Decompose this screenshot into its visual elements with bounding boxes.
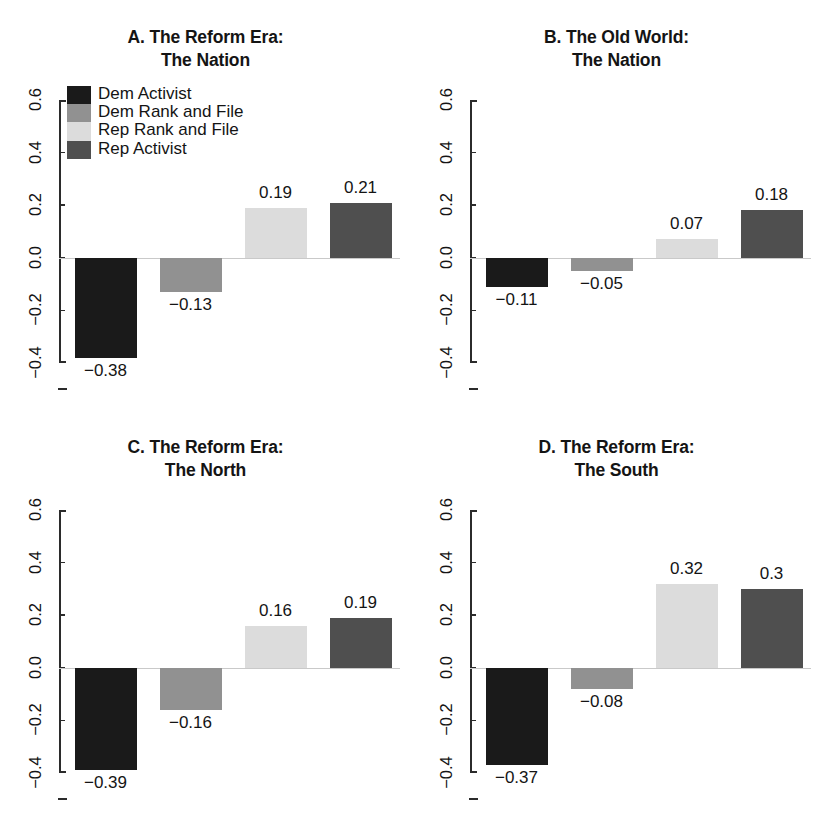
panel-b-plot-area: 0.60.40.20.0−0.2−0.4−0.11−0.050.070.18 [470, 100, 810, 363]
bar [75, 258, 137, 358]
y-axis-tick-label: −0.2 [26, 700, 45, 740]
y-axis-tick-label: −0.2 [26, 290, 45, 330]
bar-value-label: 0.16 [229, 601, 323, 621]
bar-value-label: 0.3 [725, 564, 819, 584]
panel-a: A. The Reform Era: The Nation 0.60.40.20… [0, 0, 411, 410]
y-axis-tick-label: 0.6 [437, 80, 456, 120]
bar-value-label: 0.21 [314, 178, 408, 198]
figure-panel-grid: A. The Reform Era: The Nation 0.60.40.20… [0, 0, 823, 821]
bar [486, 668, 548, 765]
y-axis-tick-label: −0.2 [437, 290, 456, 330]
bar [656, 239, 718, 257]
y-axis-tick-label: 0.0 [26, 647, 45, 687]
bar-value-label: −0.39 [59, 773, 153, 793]
y-axis-tick-label: 0.0 [437, 237, 456, 277]
y-axis-lower-dash [469, 388, 478, 390]
bar-value-label: 0.07 [640, 214, 734, 234]
bar [330, 203, 392, 258]
panel-d-title: D. The Reform Era: The South [411, 436, 822, 482]
bar [741, 589, 803, 668]
bar [571, 668, 633, 689]
y-axis-tick-label: 0.2 [437, 185, 456, 225]
panel-d: D. The Reform Era: The South 0.60.40.20.… [411, 410, 822, 820]
y-axis-lower-dash [469, 798, 478, 800]
bar-value-label: 0.32 [640, 559, 734, 579]
bar-group: −0.39−0.160.160.19 [59, 510, 399, 773]
bar [160, 258, 222, 292]
y-axis-tick-label: 0.0 [437, 647, 456, 687]
y-axis-tick-label: 0.4 [26, 542, 45, 582]
bar [245, 208, 307, 258]
y-axis-lower-dash [58, 388, 67, 390]
bar [330, 618, 392, 668]
bar-value-label: −0.08 [555, 692, 649, 712]
bar-value-label: −0.16 [144, 713, 238, 733]
bar-group: −0.37−0.080.320.3 [470, 510, 810, 773]
bar [160, 668, 222, 710]
bar-value-label: 0.18 [725, 185, 819, 205]
bar-value-label: −0.11 [470, 290, 564, 310]
legend-swatch-icon [67, 86, 91, 104]
legend-item: Rep Rank and File [67, 122, 307, 140]
y-axis-tick-label: 0.6 [26, 80, 45, 120]
bar [75, 668, 137, 771]
y-axis-tick-label: −0.4 [437, 753, 456, 793]
panel-c-plot-area: 0.60.40.20.0−0.2−0.4−0.39−0.160.160.19 [59, 510, 399, 773]
y-axis-tick-label: 0.4 [437, 542, 456, 582]
y-axis-tick-label: 0.2 [26, 185, 45, 225]
panel-a-title-line1: A. The Reform Era: [0, 26, 411, 49]
chart-legend: Dem ActivistDem Rank and FileRep Rank an… [67, 86, 307, 159]
panel-c-title-line1: C. The Reform Era: [0, 436, 411, 459]
y-axis-tick-label: −0.4 [437, 343, 456, 383]
y-axis-tick-label: 0.4 [26, 132, 45, 172]
y-axis-tick-label: 0.2 [26, 595, 45, 635]
panel-d-title-line1: D. The Reform Era: [411, 436, 822, 459]
panel-b: B. The Old World: The Nation 0.60.40.20.… [411, 0, 822, 410]
legend-swatch-icon [67, 104, 91, 122]
y-axis-tick-label: −0.4 [26, 343, 45, 383]
panel-c: C. The Reform Era: The North 0.60.40.20.… [0, 410, 411, 820]
bar [245, 626, 307, 668]
panel-b-title-line2: The Nation [411, 49, 822, 72]
panel-a-title-line2: The Nation [0, 49, 411, 72]
y-axis-tick-label: −0.4 [26, 753, 45, 793]
bar-value-label: 0.19 [229, 183, 323, 203]
panel-b-title: B. The Old World: The Nation [411, 26, 822, 72]
y-axis-tick-label: 0.4 [437, 132, 456, 172]
bar-value-label: −0.38 [59, 361, 153, 381]
y-axis-tick-label: 0.6 [26, 490, 45, 530]
bar [741, 210, 803, 257]
bar [656, 584, 718, 668]
legend-item: Rep Activist [67, 141, 307, 159]
panel-a-title: A. The Reform Era: The Nation [0, 26, 411, 72]
y-axis-tick-label: 0.6 [437, 490, 456, 530]
bar-value-label: −0.05 [555, 274, 649, 294]
bar-value-label: −0.13 [144, 295, 238, 315]
bar [571, 258, 633, 271]
panel-b-title-line1: B. The Old World: [411, 26, 822, 49]
legend-swatch-icon [67, 122, 91, 140]
bar-group: −0.11−0.050.070.18 [470, 100, 810, 363]
legend-item-label: Rep Activist [98, 140, 187, 159]
legend-item-label: Dem Activist [98, 85, 192, 104]
y-axis-tick-label: −0.2 [437, 700, 456, 740]
panel-d-plot-area: 0.60.40.20.0−0.2−0.4−0.37−0.080.320.3 [470, 510, 810, 773]
bar-value-label: −0.37 [470, 768, 564, 788]
bar-value-label: 0.19 [314, 593, 408, 613]
y-axis-tick-label: 0.0 [26, 237, 45, 277]
legend-item-label: Rep Rank and File [98, 121, 239, 140]
legend-item-label: Dem Rank and File [98, 103, 244, 122]
bar [486, 258, 548, 287]
panel-c-title-line2: The North [0, 459, 411, 482]
y-axis-lower-dash [58, 798, 67, 800]
panel-c-title: C. The Reform Era: The North [0, 436, 411, 482]
panel-d-title-line2: The South [411, 459, 822, 482]
y-axis-tick-label: 0.2 [437, 595, 456, 635]
legend-swatch-icon [67, 141, 91, 159]
